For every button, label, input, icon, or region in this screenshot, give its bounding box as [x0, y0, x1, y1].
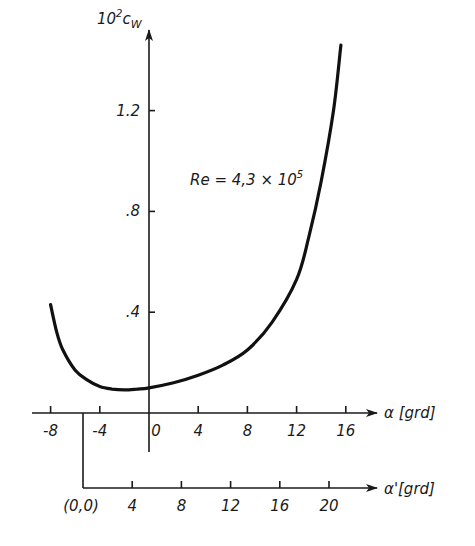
y-tick-label: .8 — [126, 202, 140, 220]
x-axis-label: α [grd] — [384, 404, 436, 422]
x-secondary-tick-label: (0,0) — [63, 497, 99, 515]
chart-canvas: .4.81.2 -8-40481216 (0,0)48121620 102cW … — [0, 0, 475, 546]
x-secondary-tick-label: 16 — [270, 497, 289, 515]
y-tick-label: .4 — [126, 303, 140, 321]
x-tick-label: 0 — [151, 422, 161, 440]
x-secondary-tick-label: 8 — [177, 497, 187, 515]
x-tick-label: 8 — [243, 422, 253, 440]
drag-curve — [51, 45, 341, 390]
x-secondary-tick-label: 20 — [319, 497, 338, 515]
x-ticks: -8-40481216 — [43, 406, 355, 440]
x-secondary-tick-label: 12 — [221, 497, 240, 515]
reynolds-annotation: Re = 4,3 × 105 — [190, 169, 303, 189]
x-tick-label: 16 — [336, 422, 355, 440]
drag-coefficient-chart: .4.81.2 -8-40481216 (0,0)48121620 102cW … — [0, 0, 475, 546]
x-secondary-ticks: (0,0)48121620 — [63, 481, 338, 515]
y-axis-label: 102cW — [97, 8, 143, 31]
x-tick-label: -4 — [92, 422, 107, 440]
y-tick-label: 1.2 — [116, 102, 140, 120]
x-tick-label: -8 — [43, 422, 58, 440]
x-tick-label: 12 — [287, 422, 306, 440]
x-secondary-axis-label: α'[grd] — [384, 480, 435, 498]
x-tick-label: 4 — [193, 422, 203, 440]
x-secondary-tick-label: 4 — [127, 497, 137, 515]
